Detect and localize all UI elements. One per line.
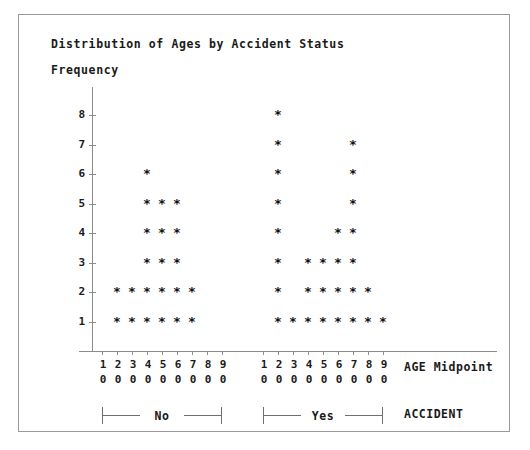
- x-axis-tick-label: 4: [141, 359, 155, 371]
- data-point-marker: *: [141, 168, 153, 180]
- bracket-rail-left: [263, 415, 301, 416]
- group-bracket-no: No: [102, 407, 222, 425]
- data-point-marker: *: [272, 139, 284, 151]
- x-axis-tick-label: 0: [126, 374, 140, 386]
- x-axis-tick-label: 7: [347, 359, 361, 371]
- x-axis-tick-label: 0: [96, 374, 110, 386]
- data-point-marker: *: [377, 316, 389, 328]
- data-point-marker: *: [141, 286, 153, 298]
- data-point-marker: *: [332, 227, 344, 239]
- data-point-marker: *: [111, 286, 123, 298]
- y-axis-line: [92, 87, 93, 351]
- x-axis-tick: [192, 351, 193, 355]
- x-axis-tick-label: 2: [272, 359, 286, 371]
- x-axis-tick-label: 0: [171, 374, 185, 386]
- x-axis-tick-label: 2: [111, 359, 125, 371]
- y-axis-tick: [89, 322, 96, 323]
- data-point-marker: *: [272, 227, 284, 239]
- group-label: No: [140, 409, 184, 423]
- data-point-marker: *: [171, 286, 183, 298]
- y-axis-tick-label: 6: [63, 169, 85, 179]
- data-point-marker: *: [302, 316, 314, 328]
- chart-frame: Distribution of Ages by Accident Status …: [18, 14, 510, 432]
- x-axis-tick-label: 0: [332, 374, 346, 386]
- x-axis-tick-label: 0: [272, 374, 286, 386]
- x-axis-tick-label: 0: [377, 374, 391, 386]
- data-point-marker: *: [302, 257, 314, 269]
- x-axis-title: AGE Midpoint: [404, 360, 493, 374]
- group-bracket-yes: Yes: [263, 407, 383, 425]
- x-axis-tick-label: 0: [287, 374, 301, 386]
- x-axis-tick: [147, 351, 148, 355]
- data-point-marker: *: [332, 257, 344, 269]
- x-axis-tick-label: 1: [96, 359, 110, 371]
- x-axis-tick-label: 8: [201, 359, 215, 371]
- x-axis-tick-label: 0: [347, 374, 361, 386]
- x-axis-tick: [132, 351, 133, 355]
- data-point-marker: *: [126, 286, 138, 298]
- x-axis-line: [79, 351, 497, 352]
- y-axis-tick-label: 2: [63, 287, 85, 297]
- data-point-marker: *: [302, 286, 314, 298]
- x-axis-tick: [308, 351, 309, 355]
- data-point-marker: *: [347, 286, 359, 298]
- data-point-marker: *: [171, 257, 183, 269]
- x-axis-tick-label: 0: [302, 374, 316, 386]
- y-axis-tick-label: 4: [63, 228, 85, 238]
- y-axis-tick: [89, 263, 96, 264]
- x-axis-tick: [368, 351, 369, 355]
- y-axis-tick: [89, 145, 96, 146]
- x-axis-tick: [278, 351, 279, 355]
- x-axis-tick-label: 8: [362, 359, 376, 371]
- data-point-marker: *: [186, 316, 198, 328]
- group-axis-title: ACCIDENT: [404, 407, 463, 421]
- x-axis-tick: [207, 351, 208, 355]
- x-axis-tick-label: 0: [257, 374, 271, 386]
- x-axis-tick-label: 6: [332, 359, 346, 371]
- x-axis-tick-label: 1: [257, 359, 271, 371]
- x-axis-tick-label: 0: [111, 374, 125, 386]
- y-axis-tick: [89, 174, 96, 175]
- bracket-rail-right: [345, 415, 383, 416]
- x-axis-tick: [383, 351, 384, 355]
- data-point-marker: *: [171, 198, 183, 210]
- x-axis-tick-label: 6: [171, 359, 185, 371]
- x-axis-tick-label: 3: [287, 359, 301, 371]
- x-axis-tick-label: 5: [156, 359, 170, 371]
- bracket-rail-left: [102, 415, 140, 416]
- x-axis-tick: [117, 351, 118, 355]
- data-point-marker: *: [272, 286, 284, 298]
- x-axis-tick-label: 5: [317, 359, 331, 371]
- data-point-marker: *: [156, 257, 168, 269]
- data-point-marker: *: [347, 139, 359, 151]
- x-axis-tick-label: 3: [126, 359, 140, 371]
- x-axis-tick-label: 0: [186, 374, 200, 386]
- data-point-marker: *: [171, 316, 183, 328]
- x-axis-tick: [222, 351, 223, 355]
- x-axis-tick-label: 0: [362, 374, 376, 386]
- data-point-marker: *: [347, 198, 359, 210]
- data-point-marker: *: [156, 198, 168, 210]
- x-axis-tick-label: 0: [216, 374, 230, 386]
- data-point-marker: *: [141, 316, 153, 328]
- y-axis-tick: [89, 292, 96, 293]
- data-point-marker: *: [111, 316, 123, 328]
- bracket-rail-right: [184, 415, 222, 416]
- x-axis-tick: [323, 351, 324, 355]
- data-point-marker: *: [156, 286, 168, 298]
- x-axis-tick: [162, 351, 163, 355]
- x-axis-tick: [263, 351, 264, 355]
- x-axis-tick-label: 9: [216, 359, 230, 371]
- x-axis-tick: [338, 351, 339, 355]
- data-point-marker: *: [347, 257, 359, 269]
- x-axis-tick-label: 0: [201, 374, 215, 386]
- x-axis-tick: [353, 351, 354, 355]
- y-axis-tick-label: 1: [63, 317, 85, 327]
- x-axis-tick-label: 0: [156, 374, 170, 386]
- x-axis-tick-label: 9: [377, 359, 391, 371]
- data-point-marker: *: [272, 168, 284, 180]
- y-axis-tick-label: 7: [63, 140, 85, 150]
- data-point-marker: *: [272, 257, 284, 269]
- data-point-marker: *: [156, 316, 168, 328]
- y-axis-tick: [89, 204, 96, 205]
